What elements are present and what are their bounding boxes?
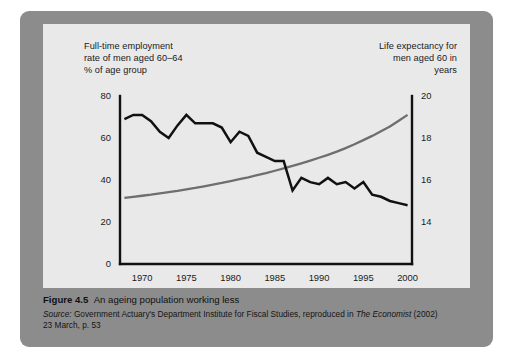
source-label: Source: xyxy=(43,309,72,319)
figure-source-line-2: 23 March, p. 53 xyxy=(43,320,473,331)
x-tick-1985: 1985 xyxy=(264,272,285,283)
y-tick-left-60: 60 xyxy=(101,132,111,143)
y-tick-right-18: 18 xyxy=(421,132,431,143)
source-publication: The Economist xyxy=(356,309,411,319)
source-body: Government Actuary's Department Institut… xyxy=(72,309,356,319)
figure-number: Figure 4.5 xyxy=(43,294,88,305)
y-tick-right-20: 20 xyxy=(421,90,431,101)
x-tick-1990: 1990 xyxy=(309,272,330,283)
y-tick-left-20: 20 xyxy=(101,216,111,227)
figure-title: Figure 4.5 An ageing population working … xyxy=(43,294,473,306)
x-tick-1995: 1995 xyxy=(353,272,374,283)
page-root: Full-time employment rate of men aged 60… xyxy=(0,0,513,358)
x-axis-tick-labels: 1970197519801985199019952000 xyxy=(132,272,418,283)
y-axis-left-tick-labels: 020406080 xyxy=(101,90,111,269)
y-tick-left-80: 80 xyxy=(101,90,111,101)
x-tick-1975: 1975 xyxy=(176,272,197,283)
y-tick-left-40: 40 xyxy=(101,174,111,185)
x-tick-1970: 1970 xyxy=(132,272,153,283)
y-tick-right-16: 16 xyxy=(421,174,431,185)
y-tick-left-0: 0 xyxy=(106,258,111,269)
x-tick-1980: 1980 xyxy=(220,272,241,283)
source-suffix: (2002) xyxy=(411,309,437,319)
y-tick-right-14: 14 xyxy=(421,216,431,227)
chart-plot: 020406080 14161820 197019751980198519901… xyxy=(43,24,470,288)
figure-title-text: An ageing population working less xyxy=(94,294,240,305)
figure-panel: Full-time employment rate of men aged 60… xyxy=(20,11,493,347)
figure-source-line-1: Source: Government Actuary's Department … xyxy=(43,309,473,320)
chart-card: Full-time employment rate of men aged 60… xyxy=(43,24,470,288)
y-axis-right-tick-labels: 14161820 xyxy=(421,90,431,227)
figure-caption-block: Figure 4.5 An ageing population working … xyxy=(43,294,473,332)
x-tick-2000: 2000 xyxy=(397,272,418,283)
